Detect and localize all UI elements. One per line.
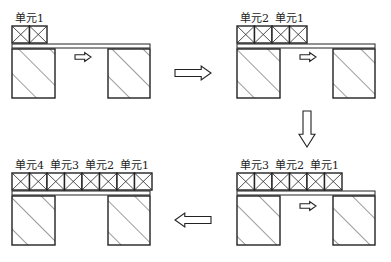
pier-right bbox=[108, 49, 150, 98]
segment-cell bbox=[117, 173, 135, 190]
flow-arrow-right bbox=[175, 66, 211, 80]
panel-stage-4: 单元4单元3单元2单元1 bbox=[12, 159, 152, 245]
segment-cell bbox=[135, 173, 153, 190]
launching-diagram: 单元1单元2单元1单元3单元2单元1单元4单元3单元2单元1 bbox=[0, 0, 391, 262]
push-arrow bbox=[75, 53, 91, 62]
segment-cell bbox=[237, 173, 255, 190]
segment-cell bbox=[290, 173, 308, 190]
beam bbox=[237, 191, 375, 195]
segment-cell bbox=[272, 26, 290, 43]
segment-cell bbox=[12, 173, 30, 190]
pier-left bbox=[237, 49, 280, 98]
panel-stage-1: 单元1 bbox=[12, 12, 150, 98]
segment-cell bbox=[290, 26, 308, 43]
unit-label: 单元2 bbox=[85, 159, 114, 172]
beam bbox=[12, 191, 150, 195]
segment-cell bbox=[255, 26, 273, 43]
unit-label: 单元1 bbox=[275, 12, 304, 25]
panel-stage-2: 单元2单元1 bbox=[237, 12, 375, 98]
segment-cell bbox=[325, 173, 343, 190]
push-arrow bbox=[300, 202, 316, 211]
flow-arrow-left bbox=[175, 213, 211, 227]
segment-cell bbox=[237, 26, 255, 43]
segment-cell bbox=[100, 173, 118, 190]
pier-left bbox=[237, 196, 280, 245]
panel-stage-3: 单元3单元2单元1 bbox=[237, 159, 375, 245]
segment-cell bbox=[255, 173, 273, 190]
segment-cell bbox=[47, 173, 65, 190]
segment-cell bbox=[307, 173, 325, 190]
segment-cell bbox=[65, 173, 83, 190]
flow-arrow-down bbox=[299, 111, 315, 147]
pier-right bbox=[333, 49, 375, 98]
pier-left bbox=[12, 49, 55, 98]
unit-label: 单元2 bbox=[240, 12, 269, 25]
unit-label: 单元3 bbox=[240, 159, 269, 172]
beam bbox=[12, 44, 150, 48]
unit-label: 单元4 bbox=[15, 159, 44, 172]
segment-cell bbox=[12, 26, 30, 43]
pier-right bbox=[108, 196, 150, 245]
segment-cell bbox=[82, 173, 100, 190]
beam bbox=[237, 44, 375, 48]
segment-cell bbox=[272, 173, 290, 190]
unit-label: 单元3 bbox=[50, 159, 79, 172]
unit-label: 单元1 bbox=[15, 12, 44, 25]
segment-cell bbox=[30, 26, 48, 43]
pier-left bbox=[12, 196, 55, 245]
pier-right bbox=[333, 196, 375, 245]
unit-label: 单元1 bbox=[310, 159, 339, 172]
unit-label: 单元1 bbox=[120, 159, 149, 172]
push-arrow bbox=[300, 53, 316, 62]
unit-label: 单元2 bbox=[275, 159, 304, 172]
segment-cell bbox=[30, 173, 48, 190]
